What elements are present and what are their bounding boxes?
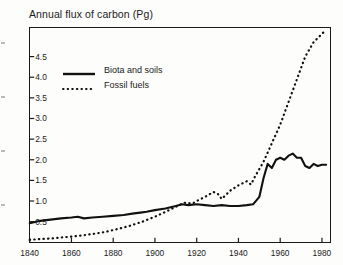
x-axis-tick-label: 1900 (146, 248, 165, 258)
page-edge-mark (1, 150, 5, 152)
series-line-biota-and-soils (30, 154, 326, 224)
y-axis-tick-label: 3.0 (35, 113, 47, 123)
page-edge-mark (1, 96, 5, 98)
x-axis-tick-label: 1980 (313, 248, 332, 258)
legend-item-biota: Biota and soils (62, 62, 163, 77)
y-axis-tick-label: 2.5 (35, 134, 47, 144)
x-axis-tick-label: 1840 (20, 248, 39, 258)
page-edge-mark (1, 204, 5, 206)
chart-legend: Biota and soils Fossil fuels (62, 62, 163, 92)
legend-label-fossil: Fossil fuels (104, 80, 149, 90)
x-axis-tick-label: 1940 (229, 248, 248, 258)
legend-swatch-dotted-icon (62, 80, 96, 90)
y-axis-tick-label: 1.0 (35, 196, 47, 206)
y-axis-tick-label: 3.5 (35, 93, 47, 103)
legend-item-fossil: Fossil fuels (62, 77, 163, 92)
y-axis-tick-label: 2.0 (35, 155, 47, 165)
x-axis-tick-label: 1860 (62, 248, 81, 258)
y-axis-tick-label: 4.5 (35, 52, 47, 62)
page-edge-mark (1, 42, 5, 44)
x-axis-tick-label: 1960 (271, 248, 290, 258)
y-axis-tick-label: 1.5 (35, 175, 47, 185)
y-axis-tick-label: 0.5 (35, 217, 47, 227)
chart-canvas (0, 0, 343, 265)
legend-swatch-solid-icon (62, 65, 96, 75)
y-axis-tick-label: 4.0 (35, 72, 47, 82)
legend-label-biota: Biota and soils (104, 65, 163, 75)
chart-figure: Annual flux of carbon (Pg) 0.51.01.52.02… (0, 0, 343, 265)
x-axis-tick-label: 1920 (187, 248, 206, 258)
x-axis-tick-label: 1880 (104, 248, 123, 258)
